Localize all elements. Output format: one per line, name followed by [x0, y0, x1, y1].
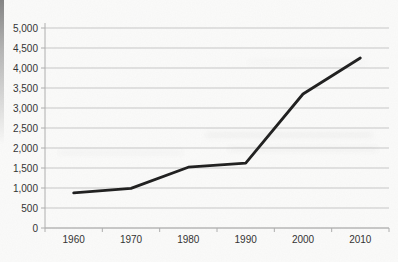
x-axis-tick-label: 1980	[177, 234, 200, 245]
x-axis-tick-label: 1970	[120, 234, 143, 245]
data-series-line	[74, 58, 361, 193]
y-axis-tick-label: 0	[32, 223, 38, 234]
y-axis-tick-label: 500	[21, 203, 38, 214]
y-axis-tick-label: 3,000	[13, 103, 38, 114]
y-axis-tick-label: 2,500	[13, 123, 38, 134]
x-axis-tick-label: 1960	[63, 234, 86, 245]
x-axis-tick-label: 2010	[349, 234, 372, 245]
x-axis-tick-label: 2000	[292, 234, 315, 245]
y-axis-tick-label: 3,500	[13, 83, 38, 94]
y-axis-tick-label: 1,000	[13, 183, 38, 194]
x-axis-tick-label: 1990	[235, 234, 258, 245]
y-axis-tick-label: 5,000	[13, 23, 38, 34]
y-axis-tick-label: 1,500	[13, 163, 38, 174]
scan-noise-overlay	[0, 0, 398, 262]
y-axis-tick-label: 4,500	[13, 43, 38, 54]
y-axis-tick-label: 2,000	[13, 143, 38, 154]
plot-area: 05001,0001,5002,0002,5003,0003,5004,0004…	[13, 23, 389, 246]
y-axis-tick-label: 4,000	[13, 63, 38, 74]
scanned-chart-page: 05001,0001,5002,0002,5003,0003,5004,0004…	[0, 0, 398, 262]
line-chart: 05001,0001,5002,0002,5003,0003,5004,0004…	[0, 0, 398, 262]
